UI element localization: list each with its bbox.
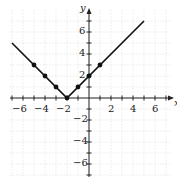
x-tick-label: −4 — [34, 103, 49, 114]
y-tick-label: −2 — [73, 113, 88, 124]
data-point — [65, 96, 70, 101]
y-tick-label: 2 — [79, 69, 85, 80]
y-axis-arrow-icon — [87, 8, 92, 14]
data-point — [87, 74, 92, 79]
y-tick-label: −6 — [73, 157, 88, 168]
data-point — [32, 63, 37, 68]
y-tick-label: 6 — [79, 25, 85, 36]
grid — [10, 10, 172, 177]
y-tick-label: −4 — [73, 135, 88, 146]
y-tick-label: 4 — [79, 47, 85, 58]
x-tick-label: 2 — [108, 103, 114, 114]
data-point — [76, 85, 81, 90]
data-point — [98, 63, 103, 68]
y-tick-labels: 6 4 2 −2 −4 −6 — [73, 25, 88, 168]
data-point — [43, 74, 48, 79]
x-tick-label: −2 — [56, 103, 71, 114]
x-axis-label: x — [174, 97, 177, 108]
chart: x y −6 −4 −2 2 4 6 6 4 2 −2 −4 −6 — [0, 0, 177, 177]
data-point — [54, 85, 59, 90]
y-axis-label: y — [79, 2, 86, 13]
x-tick-label: 6 — [152, 103, 158, 114]
x-tick-label: 4 — [130, 103, 136, 114]
x-tick-label: −6 — [12, 103, 27, 114]
